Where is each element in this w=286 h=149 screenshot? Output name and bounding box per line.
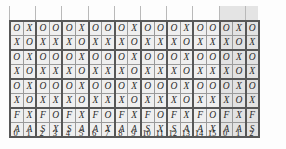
axis-label: 0 [9, 127, 22, 140]
grid-cell: X [167, 94, 180, 109]
grid-cell: O [193, 21, 206, 36]
grid-cell: X [23, 79, 36, 94]
grid-cell: X [115, 94, 128, 109]
tick-mark [140, 6, 141, 20]
grid-cell: O [102, 79, 115, 94]
grid-cell: O [154, 108, 167, 123]
grid-cell: O [246, 21, 259, 36]
grid-cell: O [49, 21, 62, 36]
grid-cell: O [141, 21, 154, 36]
axis-label: 3 [48, 127, 61, 140]
grid-row: OXOOOXOOOXOOOXOOOXO [10, 21, 259, 36]
grid-cell: O [206, 50, 219, 65]
grid-cell: O [102, 21, 115, 36]
grid-row: OXOOOXOOOXOOOXOOOXO [10, 79, 259, 94]
axis-label: 12 [166, 127, 179, 140]
grid-cell: X [128, 21, 141, 36]
grid-cell: X [23, 50, 36, 65]
grid-cell: O [75, 36, 88, 51]
grid-cell: X [23, 21, 36, 36]
grid-cell: O [233, 36, 246, 51]
grid-cell: O [23, 94, 36, 109]
grid-cell: X [89, 94, 102, 109]
grid-cell: X [102, 65, 115, 80]
grid-row: FXFOFXFOFXFOFXFOFXF [10, 108, 259, 123]
grid-cell: X [89, 36, 102, 51]
tick-mark-row [9, 6, 277, 20]
grid-cell: O [220, 50, 233, 65]
axis-label: 0 [219, 127, 232, 140]
grid-cell: X [62, 36, 75, 51]
grid-cell: X [128, 50, 141, 65]
grid-cell: O [193, 79, 206, 94]
grid-cell: X [246, 36, 259, 51]
axis-label: 9 [127, 127, 140, 140]
grid-cell: O [246, 79, 259, 94]
grid-cell: X [233, 79, 246, 94]
grid-cell: O [62, 50, 75, 65]
axis-label: 4 [61, 127, 74, 140]
grid-cell: O [62, 79, 75, 94]
axis-label: 14 [192, 127, 205, 140]
grid-cell: F [62, 108, 75, 123]
axis-label: 1 [232, 127, 245, 140]
grid-cell: O [36, 50, 49, 65]
grid-cell: O [36, 21, 49, 36]
grid-cell: O [10, 21, 23, 36]
grid-cell: X [49, 94, 62, 109]
grid-cell: O [89, 21, 102, 36]
axis-label: 2 [245, 127, 258, 140]
grid-cell: X [154, 94, 167, 109]
tick-mark [192, 6, 193, 20]
grid-cell: X [10, 94, 23, 109]
grid-cell: O [206, 79, 219, 94]
grid-cell: O [23, 65, 36, 80]
grid-cell: O [128, 65, 141, 80]
grid-cell: F [167, 108, 180, 123]
grid-cell: X [10, 65, 23, 80]
grid-cell: O [180, 36, 193, 51]
grid-cell: F [36, 108, 49, 123]
tick-mark [88, 6, 89, 20]
grid-cell: X [128, 79, 141, 94]
grid-cell: O [246, 50, 259, 65]
grid-cell: X [154, 65, 167, 80]
grid-cell: X [233, 50, 246, 65]
grid-cell: X [220, 65, 233, 80]
grid-cell: O [62, 21, 75, 36]
grid-cell: X [154, 36, 167, 51]
grid-cell: O [75, 65, 88, 80]
grid-cell: O [167, 21, 180, 36]
grid-cell: F [141, 108, 154, 123]
grid-cell: X [206, 94, 219, 109]
column-axis-labels: 0123456789101112131415012 [9, 127, 277, 141]
grid-cell: X [233, 108, 246, 123]
tick-mark [166, 6, 167, 20]
grid-cell: F [115, 108, 128, 123]
grid-row: XOXXXOXXXOXXXOXXXOX [10, 65, 259, 80]
tick-mark [219, 6, 220, 20]
grid-cell: O [141, 79, 154, 94]
grid-cell: X [89, 65, 102, 80]
grid-cell: X [220, 94, 233, 109]
grid-cell: O [10, 79, 23, 94]
grid-cell: X [36, 65, 49, 80]
grid-row: OXOOOXOOOXOOOXOOOXO [10, 50, 259, 65]
grid-row: XOXXXOXXXOXXXOXXXOX [10, 94, 259, 109]
grid-cell: O [49, 50, 62, 65]
grid-cell: X [167, 36, 180, 51]
grid-cell: F [10, 108, 23, 123]
grid-cell: O [102, 108, 115, 123]
grid-cell: X [233, 21, 246, 36]
grid-cell: F [220, 108, 233, 123]
grid-cell: X [180, 21, 193, 36]
grid-cell: X [75, 50, 88, 65]
grid-cell: O [206, 108, 219, 123]
grid-cell: X [75, 108, 88, 123]
axis-label: 15 [206, 127, 219, 140]
grid-cell: X [246, 94, 259, 109]
axis-label: 8 [114, 127, 127, 140]
grid-cell: O [49, 108, 62, 123]
grid-cell: F [193, 108, 206, 123]
grid-cell: O [10, 50, 23, 65]
